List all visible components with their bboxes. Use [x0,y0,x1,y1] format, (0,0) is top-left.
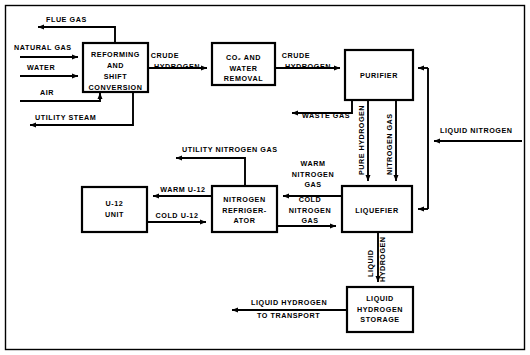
svg-text:AND: AND [107,61,124,70]
label-cold-nitrogen-2: NITROGEN [289,206,331,215]
label-water: WATER [27,63,55,72]
svg-text:REFRIGER-: REFRIGER- [222,206,267,215]
label-liquid-hydrogen-v2: HYDROGEN [378,236,387,282]
label-crude-hydrogen-1b: HYDROGEN [154,62,200,71]
label-warm-nitrogen-3: GAS [304,180,321,189]
svg-text:CO₂ AND: CO₂ AND [226,53,261,62]
svg-text:LIQUEFIER: LIQUEFIER [355,206,399,215]
svg-text:PURIFIER: PURIFIER [360,71,398,80]
label-cold-nitrogen-3: GAS [301,216,318,225]
svg-text:NITROGEN: NITROGEN [223,195,265,204]
label-crude-hydrogen-2a: CRUDE [282,51,310,60]
flow-air [20,93,100,101]
svg-text:CONVERSION: CONVERSION [89,83,143,92]
svg-text:STORAGE: STORAGE [360,315,399,324]
label-nitrogen-gas: NITROGEN GAS [385,113,394,175]
label-liquid-nitrogen: LIQUID NITROGEN [440,126,513,135]
label-flue-gas: FLUE GAS [46,15,87,24]
svg-text:U-12: U-12 [106,199,124,208]
label-liquid-hydrogen-v1: LIQUID [366,250,375,277]
flow-flue-gas [38,27,115,43]
label-liquefier: LIQUEFIER [355,206,399,215]
label-utility-steam: UTILITY STEAM [35,113,96,122]
process-flow-diagram: REFORMING AND SHIFT CONVERSION CO₂ AND W… [0,0,530,355]
svg-text:LIQUID: LIQUID [366,294,394,303]
label-utility-nitrogen-gas: UTILITY NITROGEN GAS [182,145,278,154]
label-air: AIR [40,88,54,97]
label-pure-hydrogen: PURE HYDROGEN [357,105,366,175]
label-crude-hydrogen-1a: CRUDE [151,51,179,60]
svg-text:HYDROGEN: HYDROGEN [357,305,403,314]
label-co2-water-removal: CO₂ AND WATER REMOVAL [224,53,263,83]
flow-diagram-canvas: REFORMING AND SHIFT CONVERSION CO₂ AND W… [0,0,530,355]
flow-utility-nitrogen-gas [176,158,245,186]
label-lh2-transport-1: LIQUID HYDROGEN [251,298,327,307]
label-u12-unit: U-12 UNIT [105,199,124,219]
label-cold-nitrogen-1: COLD [299,195,322,204]
label-cold-u12: COLD U-12 [156,211,199,220]
label-purifier: PURIFIER [360,71,398,80]
svg-text:WATER: WATER [229,64,257,73]
label-lh2-transport-2: TO TRANSPORT [257,311,320,320]
svg-text:REFORMING: REFORMING [91,50,140,59]
label-waste-gas: WASTE GAS [302,111,350,120]
svg-text:SHIFT: SHIFT [104,72,128,81]
svg-text:REMOVAL: REMOVAL [224,74,263,83]
svg-text:ATOR: ATOR [234,216,256,225]
label-warm-u12: WARM U-12 [160,185,205,194]
label-natural-gas: NATURAL GAS [14,43,72,52]
label-crude-hydrogen-2b: HYDROGEN [285,62,331,71]
label-warm-nitrogen-1: WARM [301,159,326,168]
svg-text:UNIT: UNIT [105,210,124,219]
label-warm-nitrogen-2: NITROGEN [292,170,334,179]
